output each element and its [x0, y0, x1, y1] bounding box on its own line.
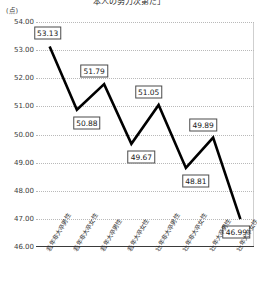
- data-point-label: 50.88: [73, 116, 100, 129]
- y-axis-tick-label: 53.00: [2, 46, 34, 54]
- y-axis-tick-label: 48.00: [2, 187, 34, 195]
- y-axis-tick-label: 46.00: [2, 243, 34, 251]
- data-point-label: 49.67: [128, 150, 155, 163]
- y-axis-unit-label: (点): [6, 5, 18, 15]
- y-axis-tick-label: 49.00: [2, 159, 34, 167]
- series-polyline: [50, 46, 241, 219]
- data-point-label: 53.13: [34, 27, 61, 40]
- data-point-label: 48.81: [182, 174, 209, 187]
- y-axis-tick-labels: 54.0053.0052.0051.0050.0049.0048.0047.00…: [0, 22, 34, 247]
- chart-root: 本人の努力次第だ」 (点) 54.0053.0052.0051.0050.004…: [0, 0, 257, 300]
- y-axis-tick-label: 52.00: [2, 74, 34, 82]
- y-axis-tick-label: 51.00: [2, 102, 34, 110]
- y-axis-tick-label: 54.00: [2, 18, 34, 26]
- data-point-label: 49.89: [189, 118, 216, 131]
- x-axis-tick-labels: 若年非大卒男性若年非大卒女性若年大卒男性若年大卒女性壮年非大卒男性壮年非大卒女性…: [36, 248, 254, 300]
- y-axis-tick-label: 47.00: [2, 215, 34, 223]
- data-point-label: 51.05: [135, 85, 162, 98]
- y-axis-tick-label: 50.00: [2, 131, 34, 139]
- chart-title: 本人の努力次第だ」: [0, 0, 257, 7]
- data-point-label: 51.79: [80, 65, 107, 78]
